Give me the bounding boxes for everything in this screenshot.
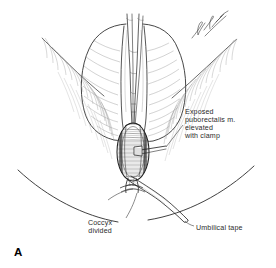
coccyx-divided-label: Coccyx divided <box>88 219 112 235</box>
exposed-puborectalis-label: Exposed puborectalis m. elevated with cl… <box>185 108 235 140</box>
label-line: Umbilical tape <box>196 224 243 232</box>
puborectalis-muscle <box>117 123 149 181</box>
label-line: Exposed <box>185 108 235 116</box>
label-line: elevated <box>185 124 235 132</box>
label-line: with clamp <box>185 132 235 140</box>
figure-panel-a: Exposed puborectalis m. elevated with cl… <box>0 0 276 268</box>
label-line: puborectalis m. <box>185 116 235 124</box>
label-line: divided <box>88 227 112 235</box>
panel-letter: A <box>14 246 22 258</box>
label-line: Coccyx <box>88 219 112 227</box>
umbilical-tape-label: Umbilical tape <box>196 224 243 232</box>
